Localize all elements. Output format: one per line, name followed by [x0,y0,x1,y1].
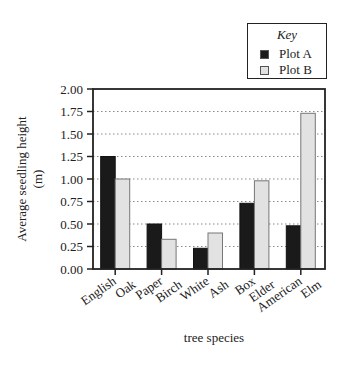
y-tick-label: 0.00 [60,262,83,277]
bar-plot-a [286,226,301,269]
y-axis-label: Average seedling height(m) [14,116,45,242]
legend-swatch-plot-b [260,66,269,75]
x-category-label: PaperBirch [132,265,185,314]
bar-plot-a [101,157,116,270]
y-tick-label: 0.25 [60,239,83,254]
bar-plot-b [254,181,269,269]
legend-item-plot-b: Plot B [260,62,312,78]
y-tick-label: 2.00 [60,82,83,97]
legend-label-plot-b: Plot B [279,62,312,78]
bar-plot-b [208,233,223,269]
legend-title: Key [248,27,326,43]
y-tick-label: 1.50 [60,127,83,142]
legend: Key Plot A Plot B [247,23,327,79]
bar-plot-b [115,179,130,269]
x-category-label: EnglishOak [78,265,139,320]
legend-label-plot-a: Plot A [279,46,312,62]
bar-plot-a [147,224,162,269]
x-axis-label: tree species [184,330,244,345]
y-tick-label: 1.75 [60,104,83,119]
bar-plot-b [162,239,177,269]
y-tick-label: 1.00 [60,172,83,187]
bar-plot-b [301,113,316,269]
y-tick-label: 0.50 [60,217,83,232]
y-tick-label: 1.25 [60,149,83,164]
x-category-label: WhiteAsh [177,265,232,315]
y-tick-label: 0.75 [60,194,83,209]
bar-plot-a [194,248,209,269]
legend-swatch-plot-a [260,50,269,59]
x-category-label: AmericanElm [254,265,324,326]
legend-item-plot-a: Plot A [260,46,312,62]
bar-plot-a [240,203,255,269]
